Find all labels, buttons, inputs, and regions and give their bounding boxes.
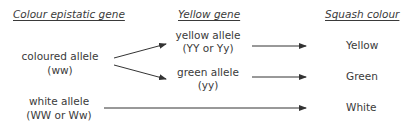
outcome-yellow: Yellow (346, 39, 378, 52)
green-allele-label: green allele (177, 66, 239, 79)
header-epistatic-gene: Colour epistatic gene (13, 8, 125, 21)
white-allele-genotype: (WW or Ww) (26, 109, 91, 122)
arrow-coloured-to-yellow (114, 44, 166, 58)
header-yellow-gene: Yellow gene (178, 8, 240, 21)
white-allele-label: white allele (29, 95, 89, 108)
arrow-coloured-to-green (114, 65, 166, 79)
header-squash-colour: Squash colour (325, 8, 399, 21)
yellow-allele-genotype: (YY or Yy) (182, 42, 233, 55)
coloured-allele-genotype: (ww) (47, 64, 72, 77)
coloured-allele-label: coloured allele (22, 50, 99, 63)
outcome-white: White (346, 101, 377, 114)
green-allele-genotype: (yy) (198, 79, 219, 92)
outcome-green: Green (346, 70, 378, 83)
yellow-allele-label: yellow allele (176, 29, 241, 42)
